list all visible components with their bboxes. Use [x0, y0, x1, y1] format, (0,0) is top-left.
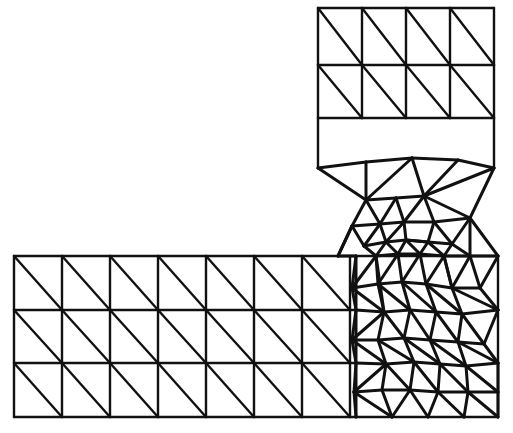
mesh-edge-bar-refined	[356, 310, 384, 312]
mesh-edge-neck	[386, 240, 406, 242]
mesh-edge-neck	[352, 224, 380, 226]
mesh-edge-bar-refined	[436, 312, 462, 314]
mesh-edge-bar-refined	[386, 362, 414, 364]
mesh-edge-bar-refined	[378, 338, 404, 340]
mesh-edge-bar-refined	[438, 364, 440, 392]
mesh-edge-bar-refined	[354, 390, 382, 392]
mesh-edge-taper	[412, 158, 458, 160]
mesh-edge-neck	[404, 222, 406, 240]
mesh-edge-bar-refined	[410, 310, 436, 312]
mesh-edge-bar-refined	[440, 364, 466, 366]
mesh-canvas	[0, 0, 513, 433]
mesh-edge-neck	[396, 196, 424, 198]
mesh-edge-bar-refined	[466, 366, 468, 392]
mesh-edge-neck	[380, 222, 404, 224]
finite-element-mesh-figure	[0, 0, 513, 433]
mesh-edge-bar-refined	[356, 363, 386, 364]
mesh-edge-bar-refined	[378, 282, 402, 284]
mesh-edge-neck	[366, 198, 396, 200]
mesh-edge-bar-refined	[414, 362, 440, 364]
mesh-edge-bar-refined	[410, 390, 438, 392]
mesh-edge-bar-refined	[384, 310, 410, 312]
